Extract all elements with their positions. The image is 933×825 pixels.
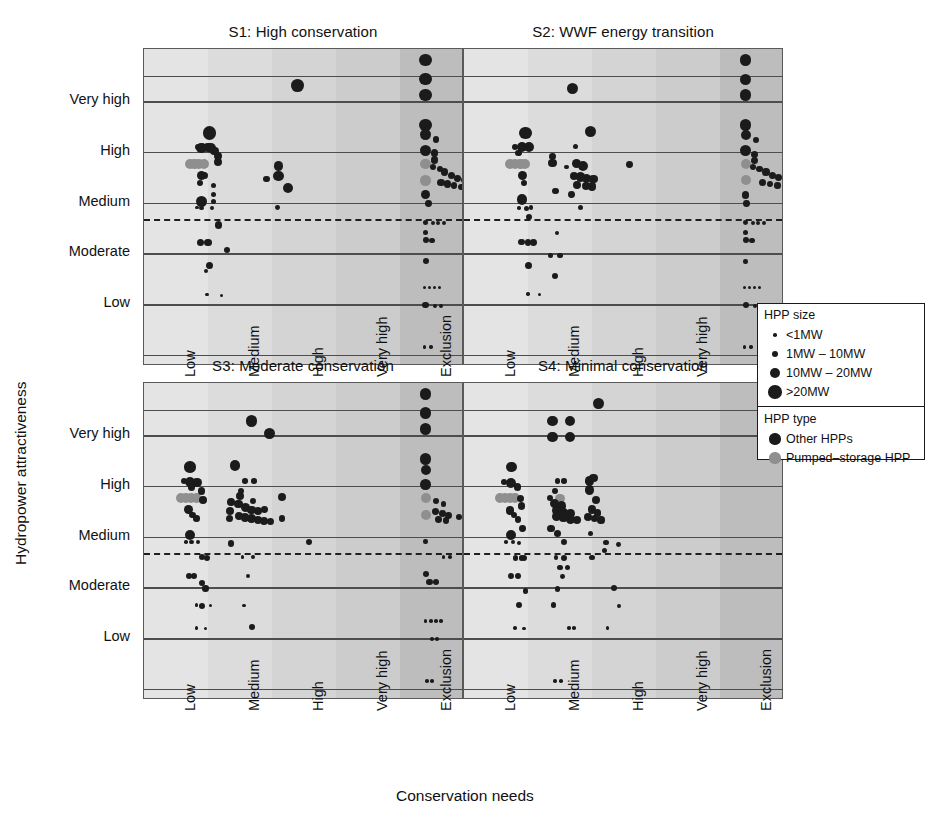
data-point-other-hpp xyxy=(561,539,567,545)
gridline xyxy=(464,253,782,254)
data-point-other-hpp xyxy=(740,145,751,156)
data-point-other-hpp xyxy=(189,540,193,544)
data-point-other-hpp xyxy=(211,199,216,204)
data-point-other-hpp xyxy=(246,415,257,426)
data-point-other-hpp xyxy=(557,565,562,570)
data-point-other-hpp xyxy=(250,498,256,504)
data-point-other-hpp xyxy=(226,507,234,515)
data-point-other-hpp xyxy=(573,181,581,189)
reference-line-medium xyxy=(144,219,462,221)
data-point-other-hpp xyxy=(564,165,569,170)
panel-s1 xyxy=(143,48,463,365)
legend-size-marker xyxy=(773,333,777,337)
data-point-other-hpp xyxy=(743,345,747,349)
background-band xyxy=(272,49,337,364)
legend-heading-hpp-size: HPP size xyxy=(764,308,815,322)
data-point-other-hpp xyxy=(429,238,434,243)
data-point-pumped-storage xyxy=(421,510,431,520)
gridline xyxy=(464,304,782,305)
data-point-other-hpp xyxy=(552,188,558,194)
data-point-other-hpp xyxy=(524,206,529,211)
data-point-other-hpp xyxy=(188,483,195,490)
data-point-other-hpp xyxy=(429,345,433,349)
data-point-other-hpp xyxy=(420,453,431,464)
data-point-other-hpp xyxy=(423,237,429,243)
data-point-other-hpp xyxy=(224,247,230,253)
data-point-other-hpp xyxy=(554,555,558,559)
panel-s3 xyxy=(143,382,463,699)
data-point-other-hpp xyxy=(548,159,556,167)
data-point-other-hpp xyxy=(743,259,747,263)
data-point-other-hpp xyxy=(448,555,452,559)
x-tick-label: Very high xyxy=(694,651,710,711)
gridline xyxy=(144,101,462,102)
data-point-other-hpp xyxy=(749,238,754,243)
data-point-other-hpp xyxy=(422,302,428,308)
data-point-other-hpp xyxy=(420,479,430,489)
data-point-other-hpp xyxy=(517,541,521,545)
legend-type-label-1: Pumped–storage HPP xyxy=(786,451,910,465)
data-point-other-hpp xyxy=(435,637,439,641)
data-point-other-hpp xyxy=(517,206,521,210)
data-point-other-hpp xyxy=(626,161,633,168)
data-point-other-hpp xyxy=(514,483,521,490)
y-tick-label: Medium xyxy=(20,527,130,543)
data-point-other-hpp xyxy=(204,239,211,246)
data-point-other-hpp xyxy=(742,191,750,199)
x-tick-label: High xyxy=(630,681,646,711)
legend-heading-hpp-type: HPP type xyxy=(764,412,817,426)
panel-s4 xyxy=(463,382,783,699)
data-point-other-hpp xyxy=(230,460,240,470)
legend-size-label-2: 10MW – 20MW xyxy=(786,366,872,380)
data-point-other-hpp xyxy=(518,239,524,245)
data-point-other-hpp xyxy=(434,619,438,623)
data-point-other-hpp xyxy=(741,130,751,140)
data-point-other-hpp xyxy=(264,428,275,439)
y-tick-label: Low xyxy=(20,628,130,644)
data-point-other-hpp xyxy=(559,679,563,683)
x-tick-label: Exclusion xyxy=(758,649,774,711)
data-point-pumped-storage xyxy=(421,493,431,503)
data-point-other-hpp xyxy=(196,196,207,207)
y-tick-label: Moderate xyxy=(20,243,130,259)
data-point-other-hpp xyxy=(275,205,280,210)
data-point-other-hpp xyxy=(743,237,749,243)
panel-title-s1: S1: High conservation xyxy=(143,23,463,40)
data-point-other-hpp xyxy=(241,555,245,559)
data-point-other-hpp xyxy=(214,158,222,166)
data-point-other-hpp xyxy=(424,619,428,623)
x-tick-label: Exclusion xyxy=(438,649,454,711)
data-point-other-hpp xyxy=(513,555,518,560)
background-band xyxy=(336,49,401,364)
x-tick-label: High xyxy=(310,347,326,377)
x-tick-label: High xyxy=(630,347,646,377)
data-point-other-hpp xyxy=(215,221,222,228)
data-point-pumped-storage xyxy=(420,159,430,169)
gridline xyxy=(144,304,462,305)
data-point-other-hpp xyxy=(589,555,594,560)
data-point-other-hpp xyxy=(184,461,195,472)
gridline xyxy=(464,76,782,77)
legend-size-label-1: 1MW – 10MW xyxy=(786,347,865,361)
data-point-other-hpp xyxy=(572,626,576,630)
data-point-other-hpp xyxy=(762,221,766,225)
data-point-other-hpp xyxy=(561,555,567,561)
data-point-other-hpp xyxy=(554,530,561,537)
background-band xyxy=(208,383,273,698)
data-point-other-hpp xyxy=(451,182,457,188)
legend-size-label-0: <1MW xyxy=(786,328,822,342)
x-tick-label: Medium xyxy=(566,659,582,711)
data-point-other-hpp xyxy=(547,432,557,442)
data-point-other-hpp xyxy=(573,516,581,524)
data-point-other-hpp xyxy=(555,586,560,591)
data-point-other-hpp xyxy=(606,626,610,630)
legend-type-label-0: Other HPPs xyxy=(786,432,853,446)
y-tick-label: Moderate xyxy=(20,577,130,593)
data-point-other-hpp xyxy=(198,487,206,495)
data-point-other-hpp xyxy=(504,540,508,544)
data-point-other-hpp xyxy=(430,637,434,641)
data-point-other-hpp xyxy=(249,624,255,630)
x-tick-label: Low xyxy=(182,350,198,377)
data-point-other-hpp xyxy=(273,171,283,181)
background-band xyxy=(272,383,337,698)
